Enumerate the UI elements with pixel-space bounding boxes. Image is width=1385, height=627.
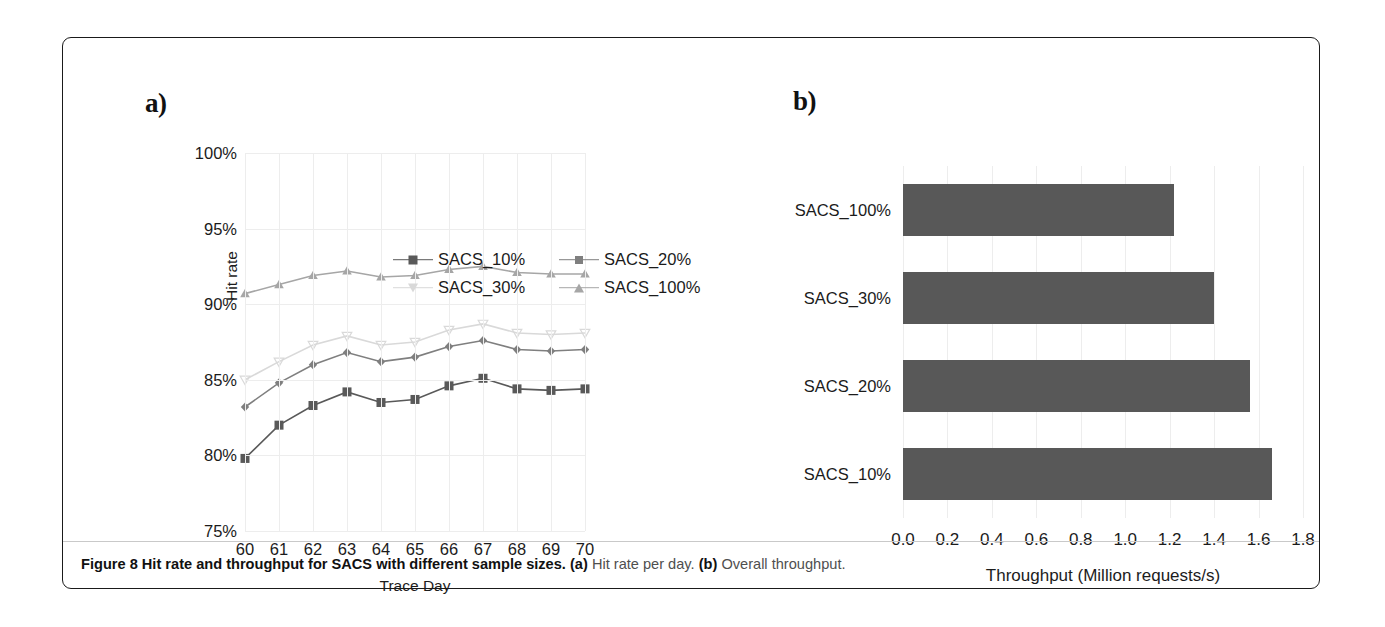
caption-a-tag: (a): [570, 556, 588, 572]
category-label-b: SACS_20%: [804, 377, 891, 396]
x-axis-tick-label-b: 0.2: [936, 530, 960, 550]
gridline-vertical: [347, 153, 348, 531]
bar-sacs-30-: [903, 272, 1214, 324]
caption-title: Hit rate and throughput for SACS with di…: [142, 556, 566, 572]
caption-label: Figure 8: [81, 556, 138, 572]
x-axis-tick-label-b: 1.8: [1291, 530, 1315, 550]
figure-caption: Figure 8 Hit rate and throughput for SAC…: [81, 555, 1301, 574]
x-axis-tick-label-b: 1.0: [1113, 530, 1137, 550]
bar-sacs-10-: [903, 448, 1272, 500]
panel-a-line-chart: Hit rate 100%95%90%85%80%75%606162636465…: [133, 128, 743, 588]
caption-divider: [63, 541, 1319, 542]
gridline-vertical: [279, 153, 280, 531]
gridline-vertical: [1303, 166, 1304, 518]
gridline-vertical: [415, 153, 416, 531]
legend-item[interactable]: SACS_10%: [393, 250, 543, 269]
gridline-vertical: [245, 153, 246, 531]
panel-a-letter: a): [145, 88, 167, 119]
category-label-b: SACS_10%: [804, 465, 891, 484]
panel-b-bar-chart: 0.00.20.40.60.81.01.21.41.61.8SACS_100%S…: [763, 128, 1363, 588]
y-axis-tick-label-a: 95%: [204, 219, 237, 238]
x-axis-tick-label-b: 1.6: [1247, 530, 1271, 550]
legend-item[interactable]: SACS_20%: [559, 250, 709, 269]
category-label-b: SACS_100%: [795, 201, 891, 220]
x-axis-tick-label-b: 0.4: [980, 530, 1004, 550]
legend-a: SACS_10%SACS_20%SACS_30%SACS_100%: [393, 250, 813, 297]
y-axis-tick-label-a: 85%: [204, 370, 237, 389]
legend-swatch-square-icon: [393, 253, 433, 267]
figure-screenshot: a) b) Hit rate 100%95%90%85%80%75%606162…: [0, 0, 1385, 627]
legend-label: SACS_20%: [604, 250, 691, 269]
gridline-vertical: [313, 153, 314, 531]
y-axis-tick-label-a: 100%: [195, 144, 237, 163]
category-label-b: SACS_30%: [804, 289, 891, 308]
bar-sacs-100-: [903, 184, 1174, 236]
x-axis-tick-label-b: 0.8: [1069, 530, 1093, 550]
caption-b-text: Overall throughput.: [721, 556, 845, 572]
x-axis-tick-label-b: 1.2: [1158, 530, 1182, 550]
legend-swatch-triangle-down-icon: [393, 281, 433, 295]
legend-label: SACS_30%: [438, 278, 525, 297]
caption-b-tag: (b): [699, 556, 718, 572]
panel-b-letter: b): [793, 86, 816, 117]
gridline-vertical: [483, 153, 484, 531]
legend-label: SACS_10%: [438, 250, 525, 269]
gridline-horizontal: [245, 531, 585, 532]
x-axis-tick-label-b: 1.4: [1202, 530, 1226, 550]
legend-item[interactable]: SACS_100%: [559, 278, 709, 297]
y-axis-tick-label-a: 80%: [204, 446, 237, 465]
gridline-vertical: [381, 153, 382, 531]
y-axis-tick-label-a: 75%: [204, 522, 237, 541]
caption-a-text: Hit rate per day.: [592, 556, 695, 572]
gridline-vertical: [449, 153, 450, 531]
figure-frame: a) b) Hit rate 100%95%90%85%80%75%606162…: [62, 37, 1320, 589]
x-axis-tick-label-b: 0.0: [891, 530, 915, 550]
legend-item[interactable]: SACS_30%: [393, 278, 543, 297]
x-axis-tick-label-b: 0.6: [1025, 530, 1049, 550]
legend-swatch-triangle-up-icon: [559, 281, 599, 295]
gridline-vertical: [551, 153, 552, 531]
bar-sacs-20-: [903, 360, 1250, 412]
gridline-vertical: [517, 153, 518, 531]
legend-swatch-diamond-icon: [559, 253, 599, 267]
legend-label: SACS_100%: [604, 278, 700, 297]
y-axis-title-a: Hit rate: [223, 251, 241, 301]
x-axis-title-a: Trace Day: [380, 577, 451, 595]
plot-area-b: 0.00.20.40.60.81.01.21.41.61.8SACS_100%S…: [903, 166, 1303, 518]
y-axis-tick-label-a: 90%: [204, 295, 237, 314]
plot-area-a: Hit rate 100%95%90%85%80%75%606162636465…: [245, 153, 585, 531]
gridline-vertical: [585, 153, 586, 531]
